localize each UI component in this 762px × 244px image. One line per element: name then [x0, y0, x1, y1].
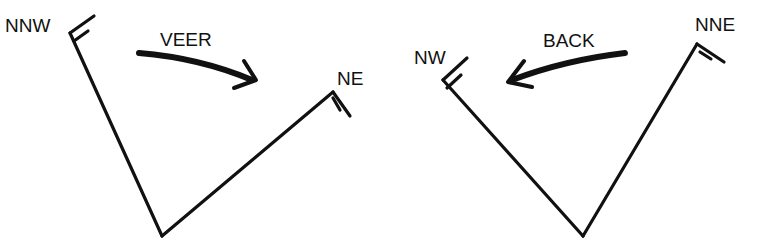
veer-diagram: NNW VEER NE [5, 15, 363, 236]
veer-arrow-icon [139, 53, 256, 88]
label-nw: NW [414, 47, 446, 68]
label-ne: NE [337, 68, 363, 89]
back-diagram: NW BACK NNE [414, 14, 735, 236]
ne-wind-barb-icon [162, 92, 350, 236]
nne-wind-barb-icon [583, 44, 724, 236]
wind-shift-diagram: NNW VEER NE NW BACK NNE [0, 0, 762, 244]
label-back: BACK [543, 30, 595, 51]
label-nnw: NNW [5, 15, 50, 36]
label-veer: VEER [160, 29, 212, 50]
label-nne: NNE [695, 14, 735, 35]
nnw-wind-barb-icon [70, 16, 162, 236]
back-arrow-icon [508, 53, 625, 87]
